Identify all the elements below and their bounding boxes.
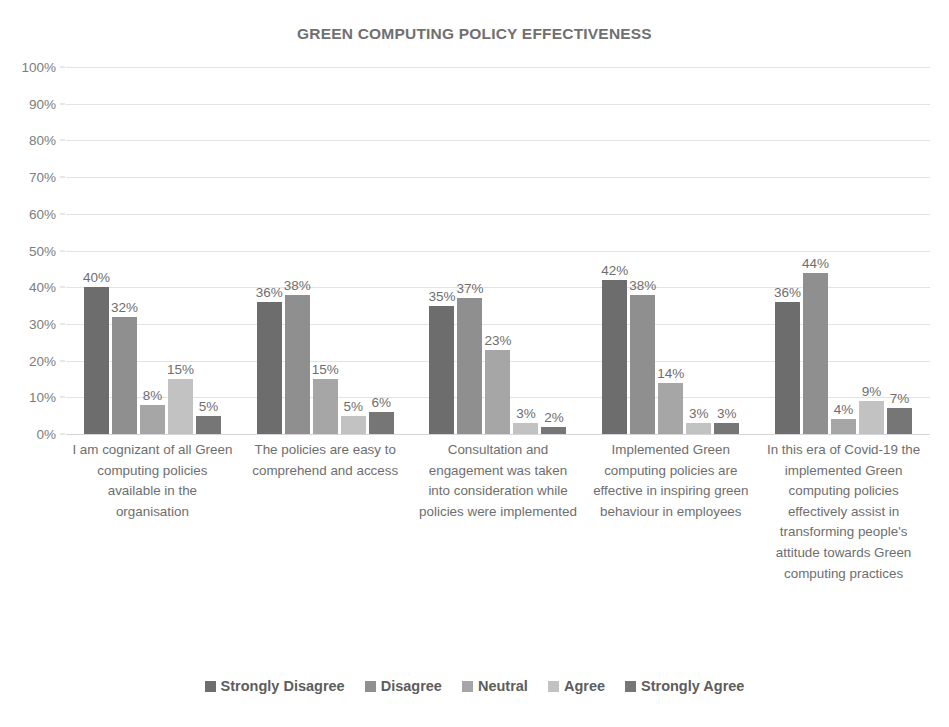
bar-group-bars: 40%32%8%15%5% bbox=[66, 67, 239, 434]
bar-slot: 15% bbox=[168, 67, 193, 434]
bar-slot: 37% bbox=[457, 67, 482, 434]
bar[interactable] bbox=[429, 306, 454, 434]
bar-value-label: 5% bbox=[185, 399, 231, 414]
bar[interactable] bbox=[257, 302, 282, 434]
legend-swatch-icon bbox=[365, 681, 376, 692]
legend-label: Strongly Agree bbox=[641, 678, 744, 694]
bar-slot: 2% bbox=[541, 67, 566, 434]
y-axis-tick-label: 20% bbox=[29, 353, 56, 368]
bar-slot: 14% bbox=[658, 67, 683, 434]
y-axis-tick-label: 40% bbox=[29, 280, 56, 295]
bar-slot: 15% bbox=[313, 67, 338, 434]
x-axis-category-label: In this era of Covid-19 the implemented … bbox=[757, 440, 930, 584]
y-axis-tick-label: 0% bbox=[36, 427, 56, 442]
y-axis-tick-label: 30% bbox=[29, 316, 56, 331]
y-axis-tick-mark bbox=[60, 287, 65, 288]
x-axis-category-label: Consultation and engagement was taken in… bbox=[412, 440, 585, 584]
bar[interactable] bbox=[196, 416, 221, 434]
chart-legend: Strongly DisagreeDisagreeNeutralAgreeStr… bbox=[0, 678, 949, 694]
y-axis-tick-mark bbox=[60, 213, 65, 214]
bar[interactable] bbox=[602, 280, 627, 434]
y-axis-tick-mark bbox=[60, 140, 65, 141]
bar[interactable] bbox=[714, 423, 739, 434]
legend-swatch-icon bbox=[548, 681, 559, 692]
bar-group: 36%44%4%9%7% bbox=[757, 67, 930, 434]
bar[interactable] bbox=[831, 419, 856, 434]
x-axis-category-label: The policies are easy to comprehend and … bbox=[239, 440, 412, 584]
bar-group: 35%37%23%3%2% bbox=[412, 67, 585, 434]
bar-slot: 40% bbox=[84, 67, 109, 434]
bar-slot: 32% bbox=[112, 67, 137, 434]
bar[interactable] bbox=[887, 408, 912, 434]
bar-slot: 23% bbox=[485, 67, 510, 434]
bar-group-bars: 36%44%4%9%7% bbox=[757, 67, 930, 434]
bar-group: 42%38%14%3%3% bbox=[584, 67, 757, 434]
y-axis-tick-label: 60% bbox=[29, 206, 56, 221]
bar[interactable] bbox=[112, 317, 137, 434]
bar-slot: 3% bbox=[513, 67, 538, 434]
legend-swatch-icon bbox=[205, 681, 216, 692]
bar[interactable] bbox=[485, 350, 510, 434]
x-axis-line bbox=[66, 434, 930, 435]
bar-slot: 4% bbox=[831, 67, 856, 434]
legend-swatch-icon bbox=[625, 681, 636, 692]
y-axis-tick-mark bbox=[60, 67, 65, 68]
legend-label: Strongly Disagree bbox=[221, 678, 345, 694]
legend-item[interactable]: Disagree bbox=[365, 678, 442, 694]
y-axis-tick-label: 80% bbox=[29, 133, 56, 148]
bar[interactable] bbox=[541, 427, 566, 434]
y-axis-tick-label: 70% bbox=[29, 170, 56, 185]
legend-label: Disagree bbox=[381, 678, 442, 694]
legend-swatch-icon bbox=[462, 681, 473, 692]
bar-slot: 38% bbox=[285, 67, 310, 434]
bar-groups: 40%32%8%15%5%36%38%15%5%6%35%37%23%3%2%4… bbox=[66, 67, 930, 434]
bar-slot: 36% bbox=[257, 67, 282, 434]
bar-value-label: 3% bbox=[704, 406, 750, 421]
legend-item[interactable]: Strongly Disagree bbox=[205, 678, 345, 694]
bar-group-bars: 35%37%23%3%2% bbox=[412, 67, 585, 434]
bar-slot: 6% bbox=[369, 67, 394, 434]
bar-slot: 9% bbox=[859, 67, 884, 434]
bar[interactable] bbox=[140, 405, 165, 434]
x-axis-category-label: I am cognizant of all Green computing po… bbox=[66, 440, 239, 584]
y-axis-tick-mark bbox=[60, 397, 65, 398]
bar-group: 36%38%15%5%6% bbox=[239, 67, 412, 434]
chart-title: GREEN COMPUTING POLICY EFFECTIVENESS bbox=[0, 25, 949, 43]
x-axis-category-label: Implemented Green computing policies are… bbox=[584, 440, 757, 584]
y-axis-tick-mark bbox=[60, 323, 65, 324]
bar[interactable] bbox=[457, 298, 482, 434]
bar-slot: 44% bbox=[803, 67, 828, 434]
y-axis-tick-mark bbox=[60, 250, 65, 251]
y-axis-tick-label: 100% bbox=[21, 60, 56, 75]
bar-value-label: 2% bbox=[531, 410, 577, 425]
bar-group-bars: 36%38%15%5%6% bbox=[239, 67, 412, 434]
legend-label: Agree bbox=[564, 678, 605, 694]
y-axis-tick-mark bbox=[60, 103, 65, 104]
legend-item[interactable]: Agree bbox=[548, 678, 605, 694]
bar[interactable] bbox=[341, 416, 366, 434]
bar-slot: 7% bbox=[887, 67, 912, 434]
bar-value-label: 6% bbox=[358, 395, 404, 410]
y-axis-tick-label: 10% bbox=[29, 390, 56, 405]
bar[interactable] bbox=[686, 423, 711, 434]
bar-group: 40%32%8%15%5% bbox=[66, 67, 239, 434]
legend-item[interactable]: Strongly Agree bbox=[625, 678, 744, 694]
y-axis-tick-label: 50% bbox=[29, 243, 56, 258]
y-axis-tick-mark bbox=[60, 360, 65, 361]
bar-slot: 8% bbox=[140, 67, 165, 434]
bar-slot: 3% bbox=[686, 67, 711, 434]
y-axis-tick-label: 90% bbox=[29, 96, 56, 111]
bar[interactable] bbox=[369, 412, 394, 434]
legend-label: Neutral bbox=[478, 678, 528, 694]
bar[interactable] bbox=[775, 302, 800, 434]
bar-value-label: 7% bbox=[877, 391, 923, 406]
bar-slot: 3% bbox=[714, 67, 739, 434]
bar-slot: 5% bbox=[196, 67, 221, 434]
legend-item[interactable]: Neutral bbox=[462, 678, 528, 694]
x-axis-category-labels: I am cognizant of all Green computing po… bbox=[66, 440, 930, 584]
bar-slot: 5% bbox=[341, 67, 366, 434]
bar-slot: 36% bbox=[775, 67, 800, 434]
y-axis-labels: 100%90%80%70%60%50%40%30%20%10%0% bbox=[0, 67, 60, 434]
bar[interactable] bbox=[630, 295, 655, 434]
bar-slot: 35% bbox=[429, 67, 454, 434]
